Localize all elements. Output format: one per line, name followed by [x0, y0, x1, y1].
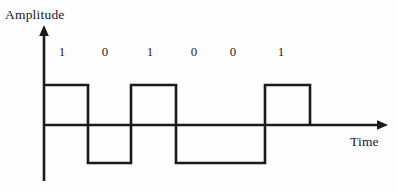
y-axis-arrowhead-icon — [39, 25, 49, 36]
bit-label-1: 0 — [97, 44, 113, 60]
waveform-plot — [0, 0, 398, 194]
bit-label-2: 1 — [142, 44, 158, 60]
bit-label-0: 1 — [54, 44, 70, 60]
y-axis-title: Amplitude — [5, 7, 65, 23]
x-axis-title: Time — [350, 134, 379, 150]
bit-label-3: 0 — [186, 44, 202, 60]
x-axis-arrowhead-icon — [377, 120, 388, 130]
bit-label-5: 1 — [273, 44, 289, 60]
signal-waveform-figure: Amplitude Time 1 0 1 0 0 1 — [0, 0, 398, 194]
bit-label-4: 0 — [225, 44, 241, 60]
